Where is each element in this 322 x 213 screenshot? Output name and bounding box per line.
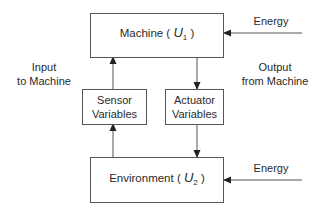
input-label-line2: to Machine [8,74,80,88]
environment-symbol: U2 [184,170,198,185]
sensor-label-line1: Sensor [92,93,137,107]
machine-symbol: U1 [173,25,187,40]
machine-box: Machine ( U1 ) [90,13,224,58]
environment-box: Environment ( U2 ) [90,157,224,203]
sensor-variables-box: Sensor Variables [82,89,147,125]
output-from-machine-label: Output from Machine [230,60,320,88]
actuator-variables-box: Actuator Variables [165,89,224,125]
output-label-line2: from Machine [230,74,320,88]
input-to-machine-label: Input to Machine [8,60,80,88]
input-label-line1: Input [8,60,80,74]
actuator-label-line2: Variables [172,107,217,121]
machine-label: Machine ( U1 ) [120,26,195,45]
environment-label: Environment ( U2 ) [109,171,205,190]
actuator-label-line1: Actuator [172,93,217,107]
sensor-label-line2: Variables [92,107,137,121]
output-label-line1: Output [230,60,320,74]
energy-top-label: Energy [249,14,293,28]
energy-bottom-label: Energy [249,161,293,175]
